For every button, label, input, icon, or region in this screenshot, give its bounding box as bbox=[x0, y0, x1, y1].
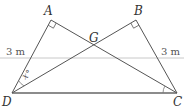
angle-arc-d bbox=[19, 81, 25, 86]
angle-arc-c bbox=[163, 86, 165, 93]
label-point-d: D bbox=[1, 95, 12, 108]
segment-db bbox=[12, 20, 136, 93]
segment-ac bbox=[51, 20, 177, 93]
geometry-diagram: A B G D C 3 m 3 m x° bbox=[0, 0, 184, 108]
label-point-b: B bbox=[133, 4, 143, 18]
angle-label-d: x° bbox=[20, 68, 34, 82]
label-point-a: A bbox=[43, 4, 53, 18]
measurement-left: 3 m bbox=[6, 46, 26, 57]
label-point-c: C bbox=[173, 95, 182, 108]
label-point-g: G bbox=[89, 31, 99, 45]
measurement-right: 3 m bbox=[161, 46, 181, 57]
